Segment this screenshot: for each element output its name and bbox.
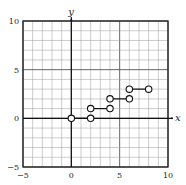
tick-labels: −50510−50510 xyxy=(7,17,173,180)
open-circle-endpoint xyxy=(126,96,132,102)
open-circle-endpoint xyxy=(126,86,132,92)
y-tick-label: 5 xyxy=(14,66,19,75)
y-axis-arrow-dot xyxy=(70,19,72,21)
open-circle-endpoint xyxy=(68,115,74,121)
open-circle-endpoint xyxy=(107,96,113,102)
y-tick-label: −5 xyxy=(7,163,19,172)
x-tick-label: 10 xyxy=(163,171,173,180)
grid-lines xyxy=(23,21,168,167)
open-circle-endpoint xyxy=(87,105,93,111)
x-tick-label: 0 xyxy=(69,171,74,180)
y-axis-label: y xyxy=(67,6,74,17)
open-circle-endpoint xyxy=(145,86,151,92)
x-tick-label: 5 xyxy=(117,171,122,180)
open-circle-endpoint xyxy=(87,115,93,121)
y-tick-label: 0 xyxy=(14,114,19,123)
plot-frame xyxy=(23,21,168,167)
plot-border xyxy=(23,21,168,167)
y-tick-label: 10 xyxy=(9,17,19,26)
open-circle-endpoint xyxy=(107,105,113,111)
x-axis-label: x xyxy=(175,112,181,123)
x-tick-label: −5 xyxy=(17,171,29,180)
chart: −50510−50510 x y xyxy=(0,0,186,185)
x-axis-arrow-dot xyxy=(171,117,173,119)
